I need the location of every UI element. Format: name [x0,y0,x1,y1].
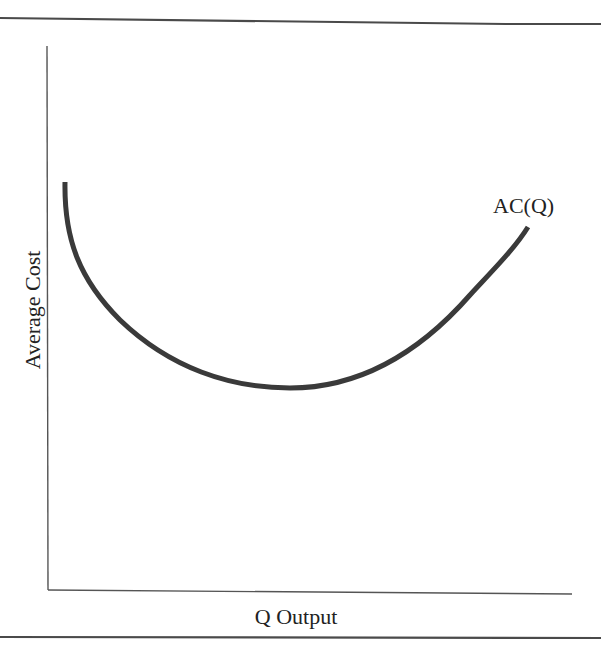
bottom-rule [0,637,601,638]
y-axis [47,46,48,590]
average-cost-chart: AC(Q) Average Cost Q Output [0,0,601,647]
x-axis [48,590,572,594]
top-rule [0,18,506,24]
x-axis-label: Q Output [255,604,338,629]
curve-label: AC(Q) [493,193,554,218]
ac-curve [65,182,528,388]
y-axis-label: Average Cost [20,251,45,370]
